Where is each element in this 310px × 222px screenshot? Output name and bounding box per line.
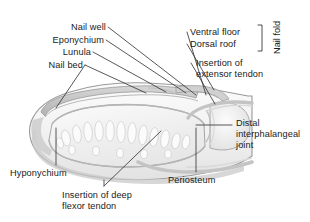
label-nail-fold: Nail fold: [272, 21, 283, 54]
label-eponychium: Eponychium: [0, 35, 104, 46]
distal-phalanx: [49, 105, 205, 167]
label-ventral-floor: Ventral floor: [190, 27, 240, 38]
label-insertion-flexor-line2: flexor tendon: [62, 201, 116, 212]
label-lunula: Lunula: [0, 47, 91, 58]
label-distal-line3: joint: [236, 140, 253, 151]
label-distal-line2: interphalangeal: [236, 129, 300, 140]
label-distal-line1: Distal: [236, 118, 260, 129]
label-nail-well: Nail well: [0, 22, 106, 33]
label-insertion-extensor-line2: extensor tendon: [196, 69, 263, 80]
label-insertion-flexor-line1: Insertion of deep: [62, 190, 132, 201]
label-hyponychium: Hyponychium: [10, 168, 67, 179]
label-periosteum: Periosteum: [168, 175, 215, 186]
figure-canvas: Nail well Eponychium Lunula Nail bed Ven…: [0, 0, 310, 222]
label-insertion-extensor-line1: Insertion of: [196, 58, 243, 69]
label-dorsal-roof: Dorsal roof: [190, 39, 236, 50]
fingertip-sagittal-illustration: [0, 0, 310, 222]
nail-fold-bracket: [258, 25, 262, 51]
label-nail-bed: Nail bed: [0, 60, 83, 71]
